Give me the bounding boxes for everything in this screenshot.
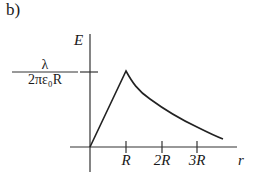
y-tick-denominator: 2πε₀R <box>12 72 78 88</box>
y-tick-numerator: λ <box>12 57 78 72</box>
y-tick-label: λ 2πε₀R <box>12 57 78 88</box>
y-axis-label: E <box>74 32 83 49</box>
x-tick-label-3R: 3R <box>189 152 206 169</box>
field-curve <box>90 71 223 147</box>
x-axis-label: r <box>238 152 244 169</box>
x-tick-label-R: R <box>121 152 130 169</box>
x-tick-label-2R: 2R <box>154 152 171 169</box>
